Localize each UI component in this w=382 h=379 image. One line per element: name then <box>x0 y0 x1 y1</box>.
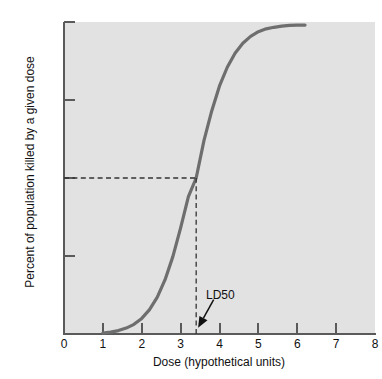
x-tick-label: 5 <box>245 338 271 351</box>
x-tick-label: 3 <box>168 338 194 351</box>
y-tick-mark <box>64 99 75 101</box>
x-tick-label: 2 <box>129 338 155 351</box>
y-axis-title: Percent of population killed by a given … <box>23 22 37 322</box>
x-tick-mark <box>257 323 259 334</box>
x-tick-label: 4 <box>207 338 233 351</box>
y-tick-mark <box>64 333 75 335</box>
y-tick-mark <box>64 177 75 179</box>
x-tick-label: 7 <box>323 338 349 351</box>
x-tick-mark <box>141 323 143 334</box>
y-tick-mark <box>64 21 75 23</box>
x-axis-title: Dose (hypothetical units) <box>0 355 382 369</box>
y-tick-mark <box>64 255 75 257</box>
x-tick-label: 6 <box>284 338 310 351</box>
x-tick-label: 8 <box>362 338 382 351</box>
x-tick-label: 1 <box>90 338 116 351</box>
x-tick-mark <box>102 323 104 334</box>
x-tick-label: 0 <box>51 338 77 351</box>
x-tick-mark <box>180 323 182 334</box>
x-tick-mark <box>219 323 221 334</box>
dose-response-chart: 0255075100 012345678 LD50 Dose (hypothet… <box>0 0 382 379</box>
x-tick-mark <box>296 323 298 334</box>
x-tick-mark <box>335 323 337 334</box>
ld50-annotation-label: LD50 <box>206 289 235 302</box>
